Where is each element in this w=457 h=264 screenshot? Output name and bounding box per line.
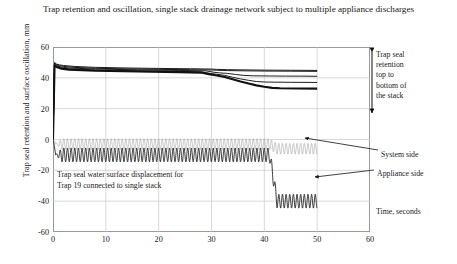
- x-tick-20: 20: [155, 235, 163, 244]
- y-tick-40: 40: [41, 73, 49, 82]
- chart-canvas: [53, 47, 370, 232]
- y-tick--60: -60: [38, 228, 49, 237]
- x-tick-30: 30: [207, 235, 215, 244]
- trap-seal-retention-bracket-label: Trap seal retention top to bottom of the…: [376, 50, 407, 101]
- plot-area: -60-40-200204060 0102030405060: [53, 47, 370, 232]
- y-tick--40: -40: [38, 197, 49, 206]
- x-tick-40: 40: [260, 235, 268, 244]
- series-trap-seal-retention-upper-mid: [53, 63, 317, 139]
- x-tick-0: 0: [51, 235, 55, 244]
- y-axis-title: Trap seal retention and surface oscillat…: [22, 6, 31, 196]
- chart-title: Trap retention and oscillation, single s…: [0, 3, 457, 16]
- x-tick-10: 10: [102, 235, 110, 244]
- y-tick-20: 20: [41, 104, 49, 113]
- system-side-label: System side: [381, 150, 418, 160]
- series-trap-seal-retention-top-of-stack: [53, 62, 317, 139]
- y-tick-0: 0: [45, 135, 49, 144]
- appliance-side-label: Appliance side: [377, 169, 424, 179]
- y-tick-60: 60: [41, 43, 49, 52]
- x-tick-50: 50: [313, 235, 321, 244]
- y-tick--20: -20: [38, 166, 49, 175]
- in-plot-note: Trap seal water surface displacement for…: [57, 170, 183, 191]
- chart-root: Trap retention and oscillation, single s…: [0, 0, 457, 264]
- x-tick-60: 60: [366, 235, 374, 244]
- series-trap-seal-retention-mid: [53, 64, 317, 140]
- series-trap-seal-retention-bottom-of-stack: [53, 66, 317, 140]
- x-axis-title: Time, seconds: [376, 207, 421, 217]
